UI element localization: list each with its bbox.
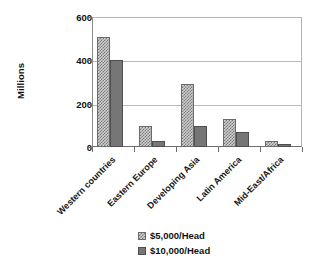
x-tick-1 [134,147,135,152]
bar-0-1 [139,126,152,147]
bar-0-0 [97,37,110,148]
legend: $5,000/Head $10,000/Head [138,228,248,258]
bar-0-2 [181,84,194,147]
legend-item-10000: $10,000/Head [138,243,248,258]
x-tick-2 [176,147,177,152]
bars-layer [92,17,302,147]
legend-label-10000: $10,000/Head [150,245,210,256]
legend-item-5000: $5,000/Head [138,228,248,243]
bar-0-3 [223,119,236,147]
bar-1-4 [278,144,291,147]
bar-0-4 [265,141,278,148]
legend-label-5000: $5,000/Head [150,230,205,241]
x-tick-0 [92,147,93,152]
y-axis-title: Millions [15,41,29,121]
bar-1-0 [110,60,123,147]
legend-swatch-icon-5000 [138,232,146,240]
bar-1-1 [152,141,165,148]
bar-1-3 [236,132,249,147]
bar-chart: Millions 600 400 200 0 Western countries… [0,0,318,271]
x-tick-5 [302,147,303,152]
x-tick-4 [260,147,261,152]
bar-1-2 [194,126,207,147]
x-tick-3 [218,147,219,152]
legend-swatch-icon-10000 [138,247,146,255]
